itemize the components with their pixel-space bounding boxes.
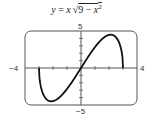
y-max-label: 5 — [78, 22, 83, 31]
x-max-label: 4 — [140, 64, 145, 73]
x-min-label: −4 — [9, 64, 19, 73]
chart-plot: −4 4 5 −5 — [0, 0, 153, 121]
y-min-label: −5 — [76, 107, 86, 116]
